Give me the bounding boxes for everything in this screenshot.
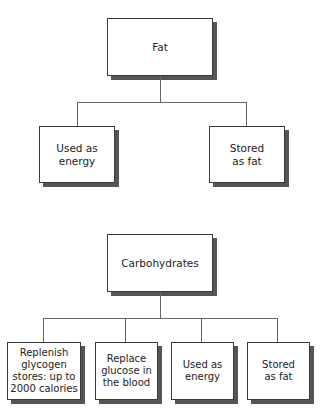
carbs-child-used-as-energy: Used as energy (171, 342, 234, 400)
fat-child-used-as-energy: Used as energy (39, 126, 115, 183)
fat-child-stored-as-fat: Stored as fat (209, 126, 285, 183)
child-label: Stored as fat (262, 359, 295, 383)
connector (201, 318, 202, 342)
child-label: Used as energy (183, 359, 223, 383)
connector (77, 102, 247, 103)
child-label: Stored as fat (230, 142, 264, 167)
connector (246, 102, 247, 126)
carbs-root-label: Carbohydrates (121, 257, 199, 270)
connector (125, 318, 126, 342)
connector (277, 318, 278, 342)
child-label: Replace glucose in the blood (101, 353, 152, 389)
connector (160, 76, 161, 102)
child-label: Replenish glycogen stores: up to 2000 ca… (10, 347, 77, 395)
carbs-child-stored-as-fat: Stored as fat (247, 342, 310, 400)
connector (160, 292, 161, 318)
child-label: Used as energy (56, 142, 98, 167)
connector (77, 102, 78, 126)
fat-root-label: Fat (152, 41, 168, 54)
connector (43, 318, 278, 319)
carbs-root-box: Carbohydrates (107, 234, 213, 292)
carbs-child-replenish-glycogen: Replenish glycogen stores: up to 2000 ca… (7, 342, 81, 400)
connector (43, 318, 44, 342)
carbs-child-replace-glucose: Replace glucose in the blood (95, 342, 158, 400)
fat-root-box: Fat (107, 18, 213, 76)
